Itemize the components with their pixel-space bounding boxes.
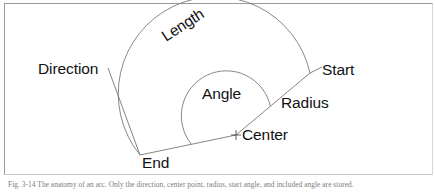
direction-leader-line: [108, 68, 140, 155]
label-end: End: [142, 154, 169, 171]
start-leader-line: [310, 67, 322, 73]
figure-page: Direction Length Start Angle Radius Cent…: [0, 0, 435, 194]
label-direction: Direction: [38, 60, 98, 77]
arc-anatomy-diagram: Direction Length Start Angle Radius Cent…: [0, 0, 435, 176]
label-center: Center: [242, 126, 288, 143]
label-radius: Radius: [281, 94, 329, 111]
figure-caption: Fig. 3-14 The anatomy of an arc. Only th…: [8, 180, 430, 194]
center-marker: [231, 130, 241, 140]
center-to-end-line: [140, 135, 236, 155]
label-angle: Angle: [202, 85, 241, 102]
label-start: Start: [322, 61, 355, 78]
